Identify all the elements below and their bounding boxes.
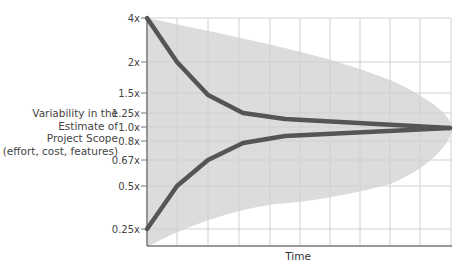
cone-of-uncertainty-chart: 4x 2x 1.5x 1.25x 1.0x 0.8x 0.67x 0.5x 0.… <box>0 0 462 269</box>
tick-label-0-67x: 0.67x <box>112 155 140 166</box>
tick-label-4x: 4x <box>128 13 140 24</box>
x-axis-label: Time <box>284 250 311 262</box>
tick-label-1-0x: 1.0x <box>118 122 140 133</box>
tick-label-2x: 2x <box>128 57 140 68</box>
tick-label-0-8x: 0.8x <box>118 136 140 147</box>
tick-label-0-5x: 0.5x <box>118 181 140 192</box>
tick-label-1-25x: 1.25x <box>112 108 140 119</box>
tick-label-0-25x: 0.25x <box>112 224 140 235</box>
y-ticks <box>141 18 147 229</box>
y-tick-labels: 4x 2x 1.5x 1.25x 1.0x 0.8x 0.67x 0.5x 0.… <box>112 13 140 235</box>
tick-label-1-5x: 1.5x <box>118 88 140 99</box>
